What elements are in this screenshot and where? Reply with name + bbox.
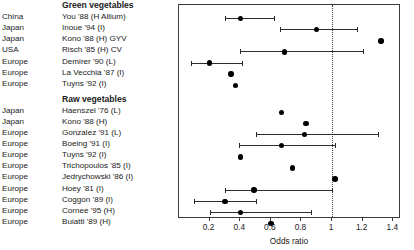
study-region: Europe	[2, 67, 28, 78]
odds-ratio-marker	[290, 165, 295, 170]
study-row: EuropeBuiatti '89 (H)	[0, 216, 176, 227]
study-name: Demirer '90 (L)	[62, 56, 116, 67]
study-region: Japan	[2, 116, 24, 127]
study-region: Japan	[2, 33, 24, 44]
odds-ratio-marker	[251, 187, 256, 192]
confidence-interval-cap	[256, 199, 257, 204]
null-reference-line	[332, 5, 333, 217]
confidence-interval-cap	[191, 61, 192, 66]
study-region: Europe	[2, 205, 28, 216]
study-row: JapanKono '88 (H)	[0, 116, 176, 127]
group-heading: Raw vegetables	[62, 94, 126, 105]
confidence-interval-line	[210, 212, 311, 213]
x-axis-tick-label: 0.6	[264, 222, 276, 232]
confidence-interval-cap	[225, 16, 226, 21]
study-region: Europe	[2, 183, 28, 194]
confidence-interval-cap	[378, 132, 379, 137]
confidence-interval-cap	[239, 143, 240, 148]
confidence-interval-cap	[240, 49, 241, 54]
study-name: Haenszel '76 (L)	[62, 105, 121, 116]
study-row: EuropeLa Vecchia '87 (I)	[0, 67, 176, 78]
x-axis-tick	[300, 218, 301, 221]
study-region: Japan	[2, 105, 24, 116]
study-name: Boeing '91 (I)	[62, 138, 110, 149]
confidence-interval-line	[191, 63, 242, 64]
confidence-interval-cap	[311, 210, 312, 215]
confidence-interval-line	[240, 51, 362, 52]
study-region: Europe	[2, 56, 28, 67]
study-row: JapanKono '88 (H) GYV	[0, 33, 176, 44]
study-name: Hoey '81 (I)	[62, 183, 104, 194]
x-axis-tick	[392, 218, 393, 221]
study-region: Europe	[2, 127, 28, 138]
x-axis-tick-label: 1	[329, 222, 334, 232]
study-row: JapanInoue '94 (I)	[0, 22, 176, 33]
confidence-interval-cap	[194, 199, 195, 204]
odds-ratio-marker	[279, 110, 284, 115]
confidence-interval-cap	[332, 188, 333, 193]
odds-ratio-marker	[314, 27, 319, 32]
x-axis-tick	[331, 218, 332, 221]
study-region: Europe	[2, 78, 28, 89]
study-region: China	[2, 11, 23, 22]
study-region: Japan	[2, 22, 24, 33]
odds-ratio-marker	[222, 199, 227, 204]
study-row: EuropeDemirer '90 (L)	[0, 56, 176, 67]
confidence-interval-cap	[256, 132, 257, 137]
study-region: Europe	[2, 216, 28, 227]
confidence-interval-cap	[225, 188, 226, 193]
odds-ratio-marker	[207, 60, 212, 65]
odds-ratio-marker	[238, 16, 243, 21]
study-name: You '88 (H Allium)	[62, 11, 126, 22]
study-name: Risch '85 (H) CV	[62, 44, 122, 55]
odds-ratio-marker	[228, 71, 233, 76]
study-name: Buiatti '89 (H)	[62, 216, 111, 227]
study-region: Europe	[2, 194, 28, 205]
study-row: EuropeGonzalez '91 (L)	[0, 127, 176, 138]
study-name: La Vecchia '87 (I)	[62, 67, 124, 78]
confidence-interval-cap	[335, 143, 336, 148]
confidence-interval-line	[239, 145, 335, 146]
x-axis-tick	[362, 218, 363, 221]
odds-ratio-marker	[303, 121, 308, 126]
confidence-interval-cap	[357, 27, 358, 32]
x-axis-tick	[209, 218, 210, 221]
confidence-interval-line	[256, 134, 378, 135]
confidence-interval-line	[225, 18, 274, 19]
study-name: Kono '88 (H)	[62, 116, 107, 127]
confidence-interval-cap	[242, 61, 243, 66]
study-region: Europe	[2, 160, 28, 171]
confidence-interval-cap	[274, 16, 275, 21]
x-axis-tick-label: 0.4	[233, 222, 245, 232]
odds-ratio-marker	[332, 176, 337, 181]
study-row: EuropeTuyns '92 (I)	[0, 78, 176, 89]
study-name: Tuyns '92 (I)	[62, 149, 106, 160]
odds-ratio-marker	[378, 38, 383, 43]
study-row: EuropeCoggon '89 (I)	[0, 194, 176, 205]
study-name: Jedrychowski '86 (I)	[62, 171, 133, 182]
x-axis-tick-label: 1.2	[356, 222, 368, 232]
x-axis-tick	[270, 218, 271, 221]
study-row: EuropeJedrychowski '86 (I)	[0, 171, 176, 182]
odds-ratio-marker	[233, 83, 238, 88]
study-name: Cornee '95 (H)	[62, 205, 115, 216]
confidence-interval-cap	[363, 49, 364, 54]
study-row: EuropeCornee '95 (H)	[0, 205, 176, 216]
x-axis-tick-label: 1.4	[387, 222, 399, 232]
odds-ratio-marker	[238, 210, 243, 215]
odds-ratio-marker	[279, 143, 284, 148]
study-row: USARisch '85 (H) CV	[0, 44, 176, 55]
confidence-interval-line	[225, 190, 332, 191]
x-axis-tick-label: 0.8	[295, 222, 307, 232]
study-name: Kono '88 (H) GYV	[62, 33, 127, 44]
confidence-interval-cap	[280, 27, 281, 32]
study-region: Europe	[2, 138, 28, 149]
study-name: Trichopoulos '85 (I)	[62, 160, 131, 171]
study-name: Gonzalez '91 (L)	[62, 127, 121, 138]
study-region: Europe	[2, 171, 28, 182]
study-name: Coggon '89 (I)	[62, 194, 113, 205]
study-name: Inoue '94 (I)	[62, 22, 105, 33]
odds-ratio-marker	[282, 49, 287, 54]
study-region: Europe	[2, 149, 28, 160]
x-axis-title: Odds ratio	[178, 236, 400, 246]
